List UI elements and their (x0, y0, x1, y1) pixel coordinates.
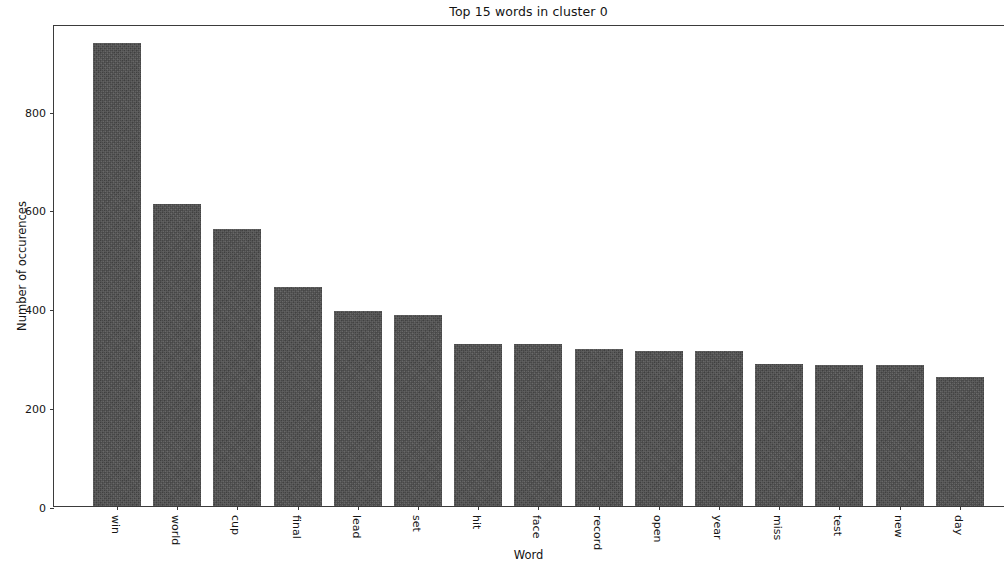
matplotlib-figure: Top 15 words in cluster 0 0200400600800 … (0, 0, 1004, 565)
x-tick-label: win (109, 515, 122, 534)
x-tick-label: world (169, 515, 182, 545)
x-tick-label: hit (470, 515, 483, 529)
x-tick-mark (659, 506, 660, 510)
x-axis-label: Word (53, 548, 1004, 562)
bar (755, 364, 803, 506)
y-tick-mark (50, 508, 54, 509)
bar (575, 349, 623, 506)
bar (93, 43, 141, 506)
x-tick-label: final (290, 515, 303, 539)
x-tick-label: set (410, 515, 423, 532)
x-tick-mark (298, 506, 299, 510)
bar (394, 315, 442, 506)
x-tick-label: year (711, 515, 724, 540)
x-tick-mark (418, 506, 419, 510)
bar (936, 377, 984, 506)
x-tick-label: new (892, 515, 905, 538)
x-tick-label: lead (350, 515, 363, 539)
bar (695, 351, 743, 506)
x-tick-mark (779, 506, 780, 510)
bar (635, 351, 683, 506)
x-tick-mark (237, 506, 238, 510)
y-axis-label: Number of occurences (14, 25, 30, 507)
x-tick-label: face (530, 515, 543, 538)
x-tick-mark (599, 506, 600, 510)
x-tick-mark (358, 506, 359, 510)
x-tick-label: day (952, 515, 965, 535)
x-tick-mark (719, 506, 720, 510)
x-tick-label: miss (771, 515, 784, 540)
bar (454, 344, 502, 506)
x-tick-mark (478, 506, 479, 510)
bar (153, 204, 201, 506)
bar (213, 229, 261, 506)
bar (514, 344, 562, 506)
bar (815, 365, 863, 506)
x-tick-mark (960, 506, 961, 510)
x-tick-mark (839, 506, 840, 510)
bar-series (54, 26, 1004, 506)
x-tick-label: open (651, 515, 664, 542)
x-tick-mark (900, 506, 901, 510)
x-tick-label: cup (229, 515, 242, 535)
chart-title: Top 15 words in cluster 0 (53, 4, 1004, 19)
x-tick-label: test (831, 515, 844, 536)
x-tick-mark (117, 506, 118, 510)
x-tick-label: record (591, 515, 604, 550)
bar (274, 287, 322, 506)
bar (334, 311, 382, 506)
plot-area: 0200400600800 winworldcupfinalleadsethit… (53, 25, 1004, 507)
x-tick-mark (538, 506, 539, 510)
bar (876, 365, 924, 506)
x-tick-mark (177, 506, 178, 510)
y-tick-label: 0 (39, 502, 46, 515)
